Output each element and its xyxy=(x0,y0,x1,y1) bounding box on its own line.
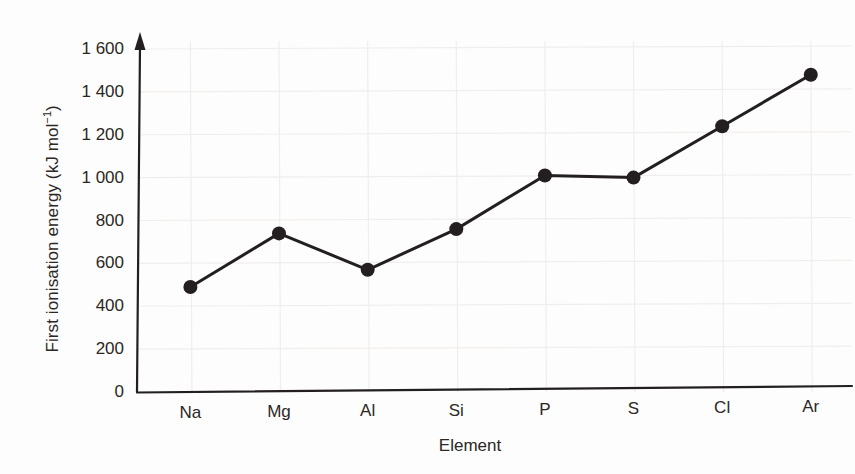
y-axis-title-main: First ionisation energy (kJ mol xyxy=(43,124,62,353)
x-tick-label-al: Al xyxy=(338,402,398,419)
gridline-horizontal xyxy=(139,46,852,49)
gridline-vertical xyxy=(811,41,813,392)
x-tick-label-p: P xyxy=(515,401,575,418)
y-tick-label-1000: 1 000 xyxy=(52,169,124,186)
data-point-p[interactable] xyxy=(538,169,552,183)
y-tick-label-600: 600 xyxy=(52,254,124,271)
y-tick-label-0: 0 xyxy=(52,383,124,400)
x-axis-title: Element xyxy=(395,436,545,456)
data-point-mg[interactable] xyxy=(272,226,286,240)
gridline-horizontal xyxy=(139,260,852,263)
data-point-cl[interactable] xyxy=(715,119,729,133)
y-tick-label-1600: 1 600 xyxy=(52,40,124,57)
gridline-vertical xyxy=(722,41,724,392)
x-tick-label-mg: Mg xyxy=(249,403,309,420)
gridline-horizontal xyxy=(139,218,852,221)
y-tick-label-1200: 1 200 xyxy=(52,126,124,143)
gridline-horizontal xyxy=(139,175,852,178)
gridline-vertical xyxy=(279,41,281,392)
y-axis-arrowhead xyxy=(135,32,146,50)
y-tick-label-200: 200 xyxy=(52,340,124,357)
gridline-vertical xyxy=(634,41,636,392)
x-tick-label-cl: Cl xyxy=(692,399,752,416)
y-axis-title-tail: ) xyxy=(43,105,62,111)
gridline-vertical xyxy=(456,41,458,392)
y-axis-line xyxy=(137,45,140,392)
y-tick-label-1400: 1 400 xyxy=(52,83,124,100)
ionisation-energy-line-chart: First ionisation energy (kJ mol−1) Eleme… xyxy=(0,0,855,474)
y-tick-label-800: 800 xyxy=(52,212,124,229)
x-tick-label-s: S xyxy=(604,400,664,417)
series-line xyxy=(190,75,810,287)
x-tick-label-si: Si xyxy=(426,402,486,419)
data-point-ar[interactable] xyxy=(804,68,818,82)
data-point-s[interactable] xyxy=(627,171,641,185)
data-point-si[interactable] xyxy=(449,222,463,236)
gridline-horizontal xyxy=(139,346,852,349)
y-tick-label-400: 400 xyxy=(52,297,124,314)
axis-lines xyxy=(135,32,853,393)
data-point-na[interactable] xyxy=(183,280,197,294)
y-axis-title-superscript: −1 xyxy=(41,111,53,124)
gridline-vertical xyxy=(545,41,547,392)
gridline-horizontal xyxy=(139,303,852,306)
gridlines xyxy=(139,41,852,392)
x-tick-label-na: Na xyxy=(160,404,220,421)
x-axis-line xyxy=(137,386,852,393)
x-tick-label-ar: Ar xyxy=(781,398,841,415)
data-point-al[interactable] xyxy=(361,263,375,277)
gridline-vertical xyxy=(190,41,192,392)
gridline-horizontal xyxy=(139,89,852,92)
gridline-horizontal xyxy=(139,132,852,135)
gridline-vertical xyxy=(368,41,370,392)
